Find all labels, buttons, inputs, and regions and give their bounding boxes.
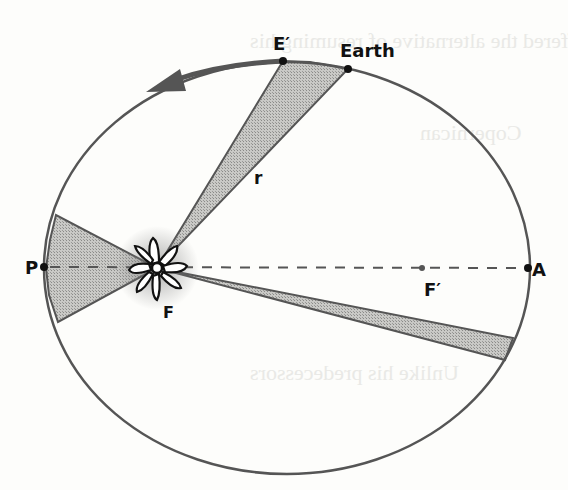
label-radius: r: [254, 168, 263, 188]
sun-center: [152, 263, 162, 273]
kepler-orbit-diagram: E′ Earth r P A F F′: [0, 0, 568, 490]
arrow-head-icon: [146, 69, 186, 92]
label-aphelion: A: [532, 259, 546, 280]
label-empty-focus: F′: [424, 279, 441, 300]
direction-arrow-icon: [175, 61, 283, 80]
label-e-prime: E′: [273, 33, 290, 54]
earth-point: [344, 65, 352, 73]
sector-aphelion: [157, 268, 513, 360]
label-focus: F: [163, 303, 174, 322]
label-perihelion: P: [25, 257, 38, 278]
empty-focus-point: [419, 265, 425, 271]
e-prime-point: [279, 57, 287, 65]
label-earth: Earth: [340, 40, 395, 61]
sector-earth: [157, 61, 348, 268]
perihelion-point: [40, 263, 48, 271]
aphelion-point: [524, 264, 532, 272]
